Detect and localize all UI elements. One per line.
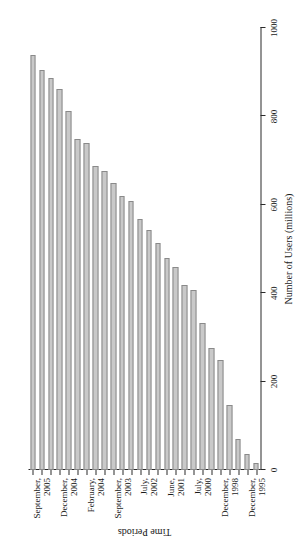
bar: [56, 89, 62, 470]
category-tick: [140, 470, 141, 475]
category-tick: [202, 470, 203, 475]
bar: [110, 183, 116, 470]
value-tick-label: 400: [268, 286, 278, 300]
category-tick: [41, 470, 42, 475]
category-tick: [193, 470, 194, 475]
bar: [155, 243, 161, 470]
category-tick-label: February,2004: [85, 478, 105, 512]
bar: [217, 360, 223, 470]
bar: [146, 230, 152, 470]
category-tick: [131, 470, 132, 475]
bar: [244, 454, 250, 470]
value-tick: [260, 204, 265, 205]
category-tick: [50, 470, 51, 475]
value-tick: [260, 292, 265, 293]
category-tick: [166, 470, 167, 475]
value-tick: [260, 469, 265, 470]
bar: [30, 55, 36, 470]
bar: [92, 166, 98, 470]
bar: [137, 219, 143, 470]
category-tick: [229, 470, 230, 475]
category-tick: [211, 470, 212, 475]
category-tick: [148, 470, 149, 475]
category-tick-label: December,2004: [58, 478, 78, 517]
value-tick: [260, 115, 265, 116]
bar: [119, 196, 125, 470]
bar: [199, 323, 205, 470]
bar: [48, 78, 54, 470]
category-tick: [32, 470, 33, 475]
bar: [74, 139, 80, 470]
category-tick: [175, 470, 176, 475]
bar: [172, 267, 178, 470]
value-tick: [260, 27, 265, 28]
value-tick-label: 600: [268, 198, 278, 212]
value-tick: [260, 381, 265, 382]
bar: [181, 285, 187, 470]
category-tick: [220, 470, 221, 475]
value-tick-label: 0: [268, 468, 278, 473]
category-tick-label: December,1998: [219, 478, 239, 517]
bar: [65, 111, 71, 470]
category-tick: [113, 470, 114, 475]
bar: [208, 348, 214, 470]
bar: [39, 70, 45, 470]
category-axis-title: Time Periods: [117, 527, 170, 538]
category-tick-label: December,1995: [246, 478, 266, 517]
bar: [101, 171, 107, 470]
category-axis-line: [28, 469, 260, 470]
bar: [128, 201, 134, 470]
category-tick-label: July,2000: [192, 478, 212, 496]
value-tick-label: 800: [268, 110, 278, 124]
category-tick-label: June,2001: [165, 478, 185, 497]
bar: [83, 143, 89, 470]
category-tick-label: September,2005: [31, 478, 51, 518]
bar: [253, 463, 259, 470]
category-tick: [86, 470, 87, 475]
category-tick: [104, 470, 105, 475]
bar: [235, 439, 241, 470]
value-tick-label: 1000: [268, 19, 278, 37]
category-tick-label: September,2003: [112, 478, 132, 518]
category-tick: [68, 470, 69, 475]
category-tick-label: July,2002: [138, 478, 158, 496]
value-axis-title: Number of Users (millions): [282, 194, 293, 305]
value-tick-label: 200: [268, 375, 278, 389]
category-tick: [157, 470, 158, 475]
category-tick: [59, 470, 60, 475]
bar-chart-figure: 02004006008001000 December,1995December,…: [0, 0, 305, 552]
category-tick: [95, 470, 96, 475]
category-tick: [184, 470, 185, 475]
category-tick: [256, 470, 257, 475]
category-tick: [122, 470, 123, 475]
bar: [190, 290, 196, 470]
category-tick: [238, 470, 239, 475]
category-tick: [77, 470, 78, 475]
bar: [164, 258, 170, 470]
value-axis-line: [260, 27, 261, 470]
rotated-page-wrapper: 02004006008001000 December,1995December,…: [0, 0, 305, 552]
bar: [226, 405, 232, 470]
category-tick: [247, 470, 248, 475]
